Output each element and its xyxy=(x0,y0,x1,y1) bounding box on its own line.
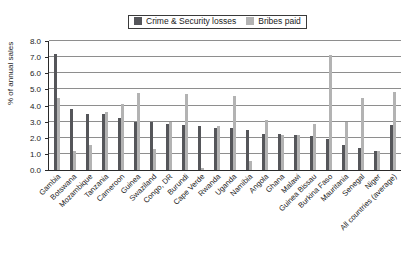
bar-crime-security-losses xyxy=(86,114,89,170)
legend-entry-crime-security-losses: Crime & Security losses xyxy=(134,17,236,26)
bar-crime-security-losses xyxy=(182,125,185,170)
y-tick-label-6.0: 6.0 xyxy=(0,69,41,78)
bar-crime-security-losses xyxy=(70,109,73,170)
bar-crime-security-losses xyxy=(358,148,361,170)
x-axis-labels: GambiaBotswanaMozambiqueTanzaniaCameroon… xyxy=(48,172,400,276)
bar-bribes-paid xyxy=(297,135,300,170)
bars-layer xyxy=(49,41,401,170)
legend-label-crime-security-losses: Crime & Security losses xyxy=(146,17,236,26)
bar-group xyxy=(326,41,333,170)
bar-group xyxy=(150,41,157,170)
plot-area xyxy=(48,41,401,171)
bar-group xyxy=(214,41,221,170)
bar-bribes-paid xyxy=(201,168,204,170)
bar-crime-security-losses xyxy=(198,126,201,170)
bar-group xyxy=(374,41,381,170)
bar-group xyxy=(102,41,109,170)
bar-crime-security-losses xyxy=(326,139,329,170)
bar-bribes-paid xyxy=(137,93,140,170)
bar-group xyxy=(262,41,269,170)
bar-crime-security-losses xyxy=(54,54,57,170)
legend-swatch-light xyxy=(246,17,254,25)
bar-bribes-paid xyxy=(121,104,124,170)
bar-crime-security-losses xyxy=(102,114,105,170)
bar-bribes-paid xyxy=(105,112,108,170)
bar-group xyxy=(230,41,237,170)
bar-bribes-paid xyxy=(249,161,252,170)
bar-group xyxy=(246,41,253,170)
bar-bribes-paid xyxy=(345,122,348,170)
legend-label-bribes-paid: Bribes paid xyxy=(258,17,301,26)
bar-group xyxy=(134,41,141,170)
bar-bribes-paid xyxy=(185,94,188,170)
bar-bribes-paid xyxy=(73,151,76,170)
y-tick-label-0.0: 0.0 xyxy=(0,166,41,175)
bar-crime-security-losses xyxy=(390,125,393,170)
bar-bribes-paid xyxy=(313,124,316,170)
bar-crime-security-losses xyxy=(150,122,153,170)
bar-crime-security-losses xyxy=(134,122,137,170)
bar-bribes-paid xyxy=(233,96,236,170)
bar-crime-security-losses xyxy=(310,136,313,170)
bar-crime-security-losses xyxy=(278,134,281,170)
y-tick-label-5.0: 5.0 xyxy=(0,85,41,94)
bar-bribes-paid xyxy=(377,151,380,170)
bar-group xyxy=(198,41,205,170)
bar-bribes-paid xyxy=(281,135,284,170)
bar-bribes-paid xyxy=(361,98,364,170)
bar-crime-security-losses xyxy=(166,124,169,170)
bar-crime-security-losses xyxy=(214,128,217,170)
bar-bribes-paid xyxy=(153,149,156,170)
bar-group xyxy=(278,41,285,170)
bar-crime-security-losses xyxy=(294,135,297,170)
bar-crime-security-losses xyxy=(262,134,265,170)
bar-group xyxy=(342,41,349,170)
bar-group xyxy=(182,41,189,170)
bar-bribes-paid xyxy=(329,55,332,170)
bar-group xyxy=(294,41,301,170)
bar-chart: Crime & Security losses Bribes paid % of… xyxy=(0,0,418,277)
bar-group xyxy=(358,41,365,170)
bar-group xyxy=(54,41,61,170)
bar-crime-security-losses xyxy=(246,130,249,170)
bar-crime-security-losses xyxy=(374,151,377,170)
bar-bribes-paid xyxy=(169,122,172,170)
bar-crime-security-losses xyxy=(118,118,121,170)
bar-crime-security-losses xyxy=(230,128,233,170)
bar-group xyxy=(118,41,125,170)
bar-bribes-paid xyxy=(393,92,396,170)
y-tick-label-8.0: 8.0 xyxy=(0,37,41,46)
bar-bribes-paid xyxy=(265,120,268,170)
y-tick-label-3.0: 3.0 xyxy=(0,117,41,126)
y-tick-label-7.0: 7.0 xyxy=(0,53,41,62)
bar-bribes-paid xyxy=(217,126,220,170)
bar-group xyxy=(390,41,397,170)
bar-group xyxy=(166,41,173,170)
bar-bribes-paid xyxy=(57,98,60,170)
bar-crime-security-losses xyxy=(342,145,345,170)
chart-legend: Crime & Security losses Bribes paid xyxy=(128,15,307,29)
legend-swatch-dark xyxy=(134,17,142,25)
y-tick-label-4.0: 4.0 xyxy=(0,101,41,110)
bar-group xyxy=(70,41,77,170)
y-tick-label-1.0: 1.0 xyxy=(0,149,41,158)
bar-group xyxy=(86,41,93,170)
bar-bribes-paid xyxy=(89,145,92,170)
legend-entry-bribes-paid: Bribes paid xyxy=(246,17,301,26)
bar-group xyxy=(310,41,317,170)
y-tick-label-2.0: 2.0 xyxy=(0,133,41,142)
